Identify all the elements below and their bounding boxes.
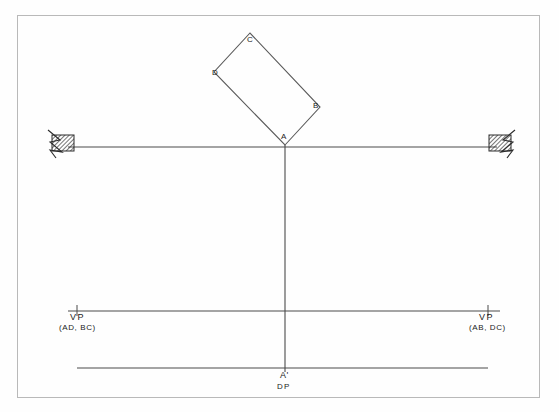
vp-right-sublabel: (AB, DC) bbox=[469, 323, 506, 332]
station-point-sublabel: DP bbox=[277, 382, 291, 391]
right-break-symbol bbox=[489, 130, 515, 158]
perspective-drawing bbox=[0, 0, 559, 412]
left-break-symbol bbox=[48, 130, 74, 158]
vertex-label-C: C bbox=[247, 35, 253, 44]
plan-rectangle-ABCD bbox=[214, 33, 320, 145]
vp-right-label: VP bbox=[479, 312, 494, 322]
vp-left-sublabel: (AD, BC) bbox=[59, 323, 96, 332]
vertex-label-B: B bbox=[313, 101, 319, 110]
station-point-label: A' bbox=[280, 370, 289, 380]
sheet-border bbox=[18, 16, 540, 398]
drawing-canvas: A B C D VP (AD, BC) VP (AB, DC) A' DP bbox=[0, 0, 559, 412]
vertex-label-D: D bbox=[212, 68, 218, 77]
vp-left-label: VP bbox=[70, 312, 85, 322]
vertex-label-A: A bbox=[281, 132, 287, 141]
